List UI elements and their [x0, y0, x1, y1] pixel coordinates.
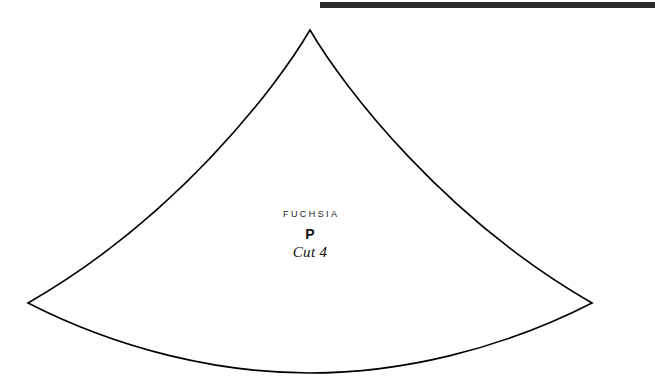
cut-instruction-label: Cut 4: [0, 244, 638, 261]
pattern-drawing: [0, 0, 655, 383]
top-black-bar: [320, 2, 655, 8]
pattern-sheet-canvas: FUCHSIA P Cut 4: [0, 0, 655, 383]
fabric-label: FUCHSIA: [0, 209, 638, 219]
piece-letter-label: P: [0, 226, 638, 242]
